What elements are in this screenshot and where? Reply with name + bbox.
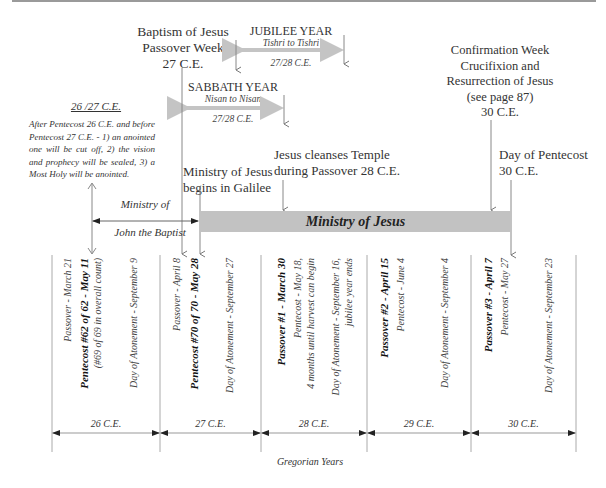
event-column-text: Pentecost #70 of 70 - May 28 <box>188 258 200 408</box>
event-column-text: Day of Atonement - September 27 <box>224 258 236 408</box>
john-baptist-line-1: Ministry of <box>100 198 190 210</box>
event-column-text: Day of Atonement - September 16, <box>330 258 342 408</box>
year-26: 26 C.E. <box>52 418 160 429</box>
event-column-text: jubilee year ends <box>343 258 355 408</box>
axis-label: Gregorian Years <box>250 456 370 467</box>
event-column-text: Passover #1 - March 30 <box>275 258 287 408</box>
event-column-text: Passover - March 21 <box>62 258 74 408</box>
diagram-lines <box>0 0 606 488</box>
john-baptist-line-2: John the Baptist <box>100 226 200 238</box>
event-column-text: Day of Atonement - September 23 <box>543 258 555 408</box>
year-30: 30 C.E. <box>471 418 576 429</box>
event-column-text: Pentecost - May 18, <box>292 258 304 408</box>
event-column-text: Pentecost #62 of 62 - May 11 <box>78 258 90 408</box>
event-column-text: Passover #2 - April 15 <box>378 258 390 408</box>
event-column-text: Day of Atonement - September 9 <box>128 258 140 408</box>
year-28: 28 C.E. <box>261 418 367 429</box>
event-column-text: Passover - April 8 <box>171 258 183 408</box>
event-column-text: Pentecost - May 27 <box>499 258 511 408</box>
event-column-text: Pentecost - June 4 <box>395 258 407 408</box>
year-29: 29 C.E. <box>367 418 471 429</box>
ministry-of-jesus-bar: Ministry of Jesus <box>200 211 511 232</box>
year-27: 27 C.E. <box>160 418 261 429</box>
event-column-text: Day of Atonement - September 4 <box>439 258 451 408</box>
event-column-text: Passover #3 - April 7 <box>482 258 494 408</box>
event-column-text: 4 months until harvest can begin <box>305 258 317 408</box>
event-column-text: (#69 of 69 in overall count) <box>92 258 104 408</box>
